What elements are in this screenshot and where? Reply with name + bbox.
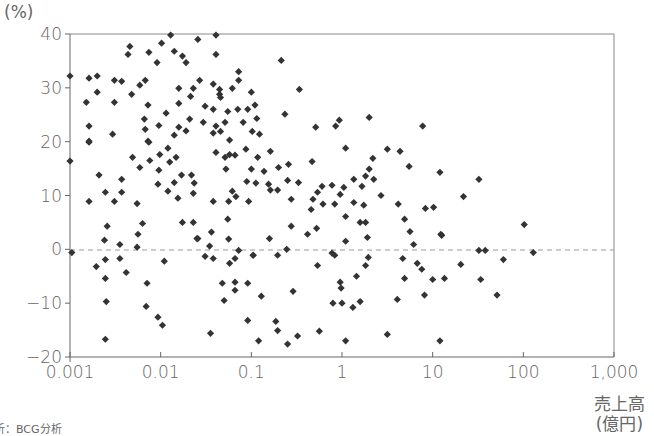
data-point-marker xyxy=(316,328,323,335)
data-point-marker xyxy=(226,260,233,267)
data-point-marker xyxy=(200,119,207,126)
data-point-marker xyxy=(500,256,507,263)
data-point-marker xyxy=(190,85,197,92)
data-point-marker xyxy=(337,279,344,286)
data-point-marker xyxy=(164,145,171,152)
data-point-marker xyxy=(357,298,364,305)
data-point-marker xyxy=(475,176,482,183)
data-point-marker xyxy=(328,182,335,189)
data-point-marker xyxy=(212,51,219,58)
data-point-marker xyxy=(260,168,267,175)
x-axis-unit: 売上高 (億円) xyxy=(594,394,645,434)
data-point-marker xyxy=(429,276,436,283)
data-point-marker xyxy=(314,189,321,196)
data-point-marker xyxy=(370,176,377,183)
x-axis-unit-currency: (億円) xyxy=(594,414,645,434)
data-point-marker xyxy=(196,77,203,84)
data-point-marker xyxy=(66,72,73,79)
data-point-marker xyxy=(460,193,467,200)
data-point-marker xyxy=(475,247,482,254)
data-point-marker xyxy=(308,206,315,213)
data-point-marker xyxy=(225,236,232,243)
data-point-marker xyxy=(210,80,217,87)
data-point-marker xyxy=(142,126,149,133)
data-point-marker xyxy=(133,200,140,207)
data-point-marker xyxy=(111,99,118,106)
data-point-marker xyxy=(191,180,198,187)
data-point-marker xyxy=(337,191,344,198)
data-point-marker xyxy=(116,255,123,262)
data-point-marker xyxy=(384,146,391,153)
data-point-marker xyxy=(340,184,347,191)
data-point-marker xyxy=(331,201,338,208)
y-tick-label: 10 xyxy=(40,186,62,206)
data-point-marker xyxy=(283,246,290,253)
data-point-marker xyxy=(207,330,214,337)
data-point-marker xyxy=(258,293,265,300)
plot-frame xyxy=(70,34,614,362)
data-point-marker xyxy=(154,181,161,188)
data-point-marker xyxy=(266,235,273,242)
data-point-marker xyxy=(275,164,282,171)
data-point-marker xyxy=(366,114,373,121)
x-tick-label: 10 xyxy=(422,362,444,382)
data-point-marker xyxy=(118,78,125,85)
data-point-marker xyxy=(410,241,417,248)
data-point-marker xyxy=(430,204,437,211)
data-point-marker xyxy=(284,177,291,184)
data-point-marker xyxy=(295,179,302,186)
data-point-marker xyxy=(116,241,123,248)
data-point-marker xyxy=(399,255,406,262)
data-point-marker xyxy=(85,198,92,205)
data-point-marker xyxy=(482,247,489,254)
data-point-marker xyxy=(187,93,194,100)
data-point-marker xyxy=(154,314,161,321)
data-point-marker xyxy=(190,219,197,226)
data-point-marker xyxy=(349,304,356,311)
data-point-marker xyxy=(85,75,92,82)
data-point-marker xyxy=(256,131,263,138)
data-point-marker xyxy=(267,187,274,194)
data-point-marker xyxy=(123,269,130,276)
data-point-marker xyxy=(358,183,365,190)
data-point-marker xyxy=(155,167,162,174)
data-point-marker xyxy=(179,52,186,59)
data-point-marker xyxy=(274,252,281,259)
data-point-marker xyxy=(210,129,217,136)
data-point-marker xyxy=(377,192,384,199)
data-point-marker xyxy=(436,169,443,176)
data-point-marker xyxy=(405,163,412,170)
data-point-marker xyxy=(245,198,252,205)
data-point-marker xyxy=(145,49,152,56)
data-point-marker xyxy=(102,275,109,282)
y-tick-label: 20 xyxy=(40,132,62,152)
data-point-marker xyxy=(338,300,345,307)
data-point-marker xyxy=(171,179,178,186)
x-tick-label: 0.1 xyxy=(238,362,265,382)
data-point-marker xyxy=(161,258,168,265)
data-point-marker xyxy=(362,173,369,180)
x-tick-label: 1,000 xyxy=(590,362,639,382)
data-point-marker xyxy=(156,151,163,158)
data-point-marker xyxy=(342,213,349,220)
data-point-marker xyxy=(394,296,401,303)
data-point-marker xyxy=(244,106,251,113)
data-point-marker xyxy=(254,154,261,161)
data-point-marker xyxy=(104,223,111,230)
data-point-marker xyxy=(366,166,373,173)
data-point-marker xyxy=(159,322,166,329)
data-point-marker xyxy=(288,196,295,203)
data-point-marker xyxy=(284,340,291,347)
data-point-marker xyxy=(101,237,108,244)
data-point-marker xyxy=(342,145,349,152)
data-point-marker xyxy=(226,136,233,143)
data-point-marker xyxy=(212,122,219,129)
y-tick-label: 0 xyxy=(51,239,62,259)
data-point-marker xyxy=(163,110,170,117)
data-point-marker xyxy=(272,318,279,325)
data-point-marker xyxy=(206,243,213,250)
data-point-marker xyxy=(178,171,185,178)
data-point-marker xyxy=(309,196,316,203)
data-point-marker xyxy=(175,124,182,131)
data-point-marker xyxy=(109,131,116,138)
